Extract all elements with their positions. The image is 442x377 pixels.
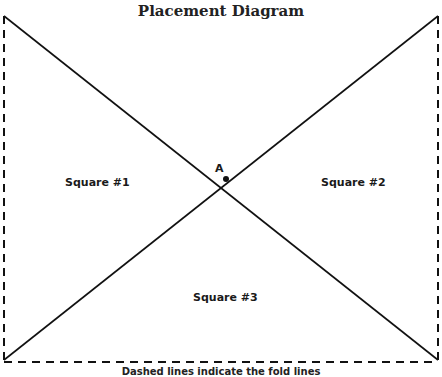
point-a-marker (223, 176, 229, 182)
fold-lines-caption: Dashed lines indicate the fold lines (0, 366, 442, 377)
diagram-title: Placement Diagram (0, 2, 442, 20)
region-label-square-3: Square #3 (193, 291, 258, 304)
region-label-square-2: Square #2 (321, 176, 386, 189)
region-label-square-1: Square #1 (65, 176, 130, 189)
point-a-label: A (215, 162, 224, 175)
